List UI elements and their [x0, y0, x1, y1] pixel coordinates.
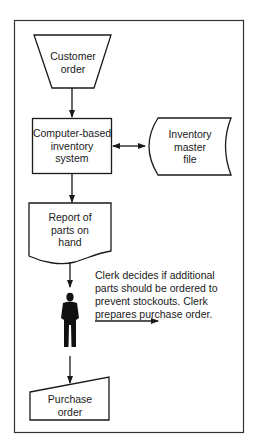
customer-order-label: Customer order: [44, 50, 102, 75]
report-label: Report of parts on hand: [29, 211, 111, 249]
label-line: parts on: [29, 224, 111, 237]
label-line: inventory: [32, 140, 112, 153]
note-line: parts should be ordered to: [95, 282, 245, 295]
note-line: prepares purchase order.: [95, 308, 245, 321]
label-line: order: [34, 406, 106, 419]
label-line: Inventory: [152, 128, 228, 141]
label-line: system: [32, 152, 112, 165]
note-line: Clerk decides if additional: [95, 269, 245, 282]
clerk-note: Clerk decides if additional parts should…: [95, 269, 245, 321]
label-line: master: [152, 141, 228, 154]
label-line: Purchase: [34, 393, 106, 406]
clerk-person-icon: [61, 293, 79, 347]
label-line: Customer: [44, 50, 102, 63]
label-line: hand: [29, 236, 111, 249]
master-file-label: Inventory master file: [152, 128, 228, 166]
purchase-order-label: Purchase order: [34, 393, 106, 418]
label-line: order: [44, 63, 102, 76]
label-line: file: [152, 153, 228, 166]
label-line: Computer-based: [32, 127, 112, 140]
label-line: Report of: [29, 211, 111, 224]
inventory-system-label: Computer-based inventory system: [32, 127, 112, 165]
note-line: prevent stockouts. Clerk: [95, 295, 245, 308]
